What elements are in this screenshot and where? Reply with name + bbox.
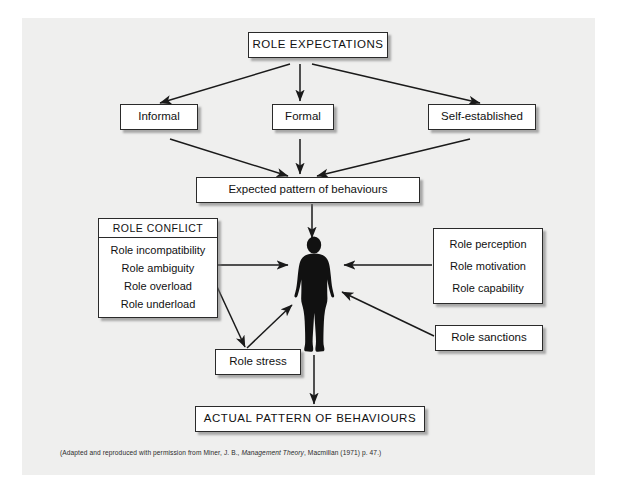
source-caption: (Adapted and reproduced with permission … (60, 449, 381, 456)
node-role-conflict-items: Role incompatibility Role ambiguity Role… (99, 238, 217, 317)
caption-after: , Macmillan (1971) p. 47.) (304, 449, 381, 456)
node-role-conflict[interactable]: ROLE CONFLICT Role incompatibility Role … (98, 218, 218, 318)
list-item: Role incompatibility (99, 242, 217, 259)
list-item: Role ambiguity (99, 260, 217, 277)
list-item: Role underload (99, 296, 217, 313)
list-item: Role overload (99, 278, 217, 295)
node-informal[interactable]: Informal (120, 104, 198, 130)
arrow-expectations-to-informal (160, 64, 290, 103)
arrow-self-to-expected (317, 139, 470, 176)
node-self-established-label: Self-established (441, 110, 523, 123)
node-informal-label: Informal (138, 110, 180, 123)
node-actual-pattern[interactable]: ACTUAL PATTERN OF BEHAVIOURS (195, 406, 425, 432)
diagram-canvas: ROLE EXPECTATIONS Informal Formal Self-e… (0, 0, 617, 491)
node-actual-pattern-label: ACTUAL PATTERN OF BEHAVIOURS (204, 412, 416, 425)
arrow-sanctions-to-person (342, 292, 434, 336)
list-item: Role perception (434, 235, 542, 253)
caption-before: (Adapted and reproduced with permission … (60, 449, 241, 456)
node-role-sanctions[interactable]: Role sanctions (435, 325, 543, 351)
node-expected-pattern[interactable]: Expected pattern of behaviours (196, 177, 420, 203)
node-role-sanctions-label: Role sanctions (451, 331, 526, 344)
node-role-expectations[interactable]: ROLE EXPECTATIONS (248, 32, 388, 58)
arrow-expectations-to-self (312, 64, 480, 103)
node-formal-label: Formal (285, 110, 321, 123)
node-role-conflict-title: ROLE CONFLICT (99, 219, 217, 238)
list-item: Role motivation (434, 257, 542, 275)
node-expected-pattern-label: Expected pattern of behaviours (228, 183, 387, 196)
list-item: Role capability (434, 279, 542, 297)
caption-italic-title: Management Theory (241, 449, 304, 456)
arrow-informal-to-expected (170, 139, 288, 176)
node-role-stress-label: Role stress (229, 355, 287, 368)
node-role-factors[interactable]: Role perception Role motivation Role cap… (433, 228, 543, 304)
arrow-stress-to-person (247, 305, 292, 348)
person-silhouette-icon (288, 236, 340, 358)
node-formal[interactable]: Formal (272, 104, 334, 130)
node-role-factors-items: Role perception Role motivation Role cap… (434, 229, 542, 303)
node-role-expectations-label: ROLE EXPECTATIONS (253, 38, 384, 51)
node-self-established[interactable]: Self-established (428, 104, 536, 130)
